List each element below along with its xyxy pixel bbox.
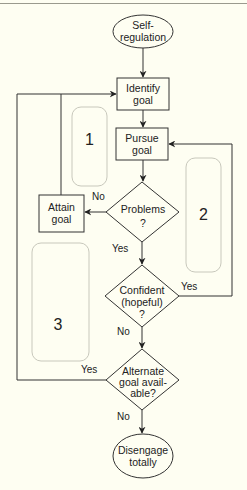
node-identify-goal: Identify goal — [117, 78, 169, 110]
node-identify-goal-line2: goal — [133, 94, 153, 106]
node-self-regulation: Self- regulation — [113, 15, 173, 48]
node-alternate-goal: Alternate goal avail- able? — [106, 349, 179, 410]
label-problems-yes: Yes — [112, 243, 128, 254]
region-1-label: 1 — [85, 131, 94, 148]
node-pursue-goal: Pursue goal — [116, 128, 168, 160]
region-1: 1 — [72, 107, 107, 186]
node-pursue-goal-line2: goal — [132, 144, 152, 156]
node-problems-line1: Problems — [121, 203, 165, 215]
node-disengage-totally: Disengage totally — [113, 434, 173, 478]
node-identify-goal-line1: Identify — [126, 82, 161, 94]
node-problems: Problems ? — [106, 182, 179, 242]
node-confident-line3: ? — [139, 308, 145, 320]
region-2-label: 2 — [199, 206, 208, 223]
node-attain-goal: Attain goal — [39, 195, 84, 232]
region-3: 3 — [32, 243, 89, 361]
label-problems-no: No — [92, 191, 105, 202]
node-confident-line1: Confident — [120, 284, 165, 296]
node-self-regulation-line1: Self- — [132, 19, 154, 31]
region-3-label: 3 — [54, 316, 63, 333]
node-disengage-line2: totally — [129, 456, 157, 468]
region-2: 2 — [186, 158, 221, 272]
node-attain-goal-line1: Attain — [48, 201, 75, 213]
label-alternate-no: No — [117, 411, 130, 422]
node-confident: Confident (hopeful) ? — [105, 265, 179, 327]
label-alternate-yes: Yes — [81, 364, 97, 375]
node-problems-line2: ? — [140, 217, 146, 229]
label-confident-yes: Yes — [181, 281, 197, 292]
node-pursue-goal-line1: Pursue — [125, 132, 158, 144]
node-attain-goal-line2: goal — [52, 213, 72, 225]
flowchart: 1 2 3 Self- regulation — [0, 0, 247, 490]
node-disengage-line1: Disengage — [118, 444, 168, 456]
node-self-regulation-line2: regulation — [120, 31, 166, 43]
node-confident-line2: (hopeful) — [121, 296, 162, 308]
label-confident-no: No — [117, 326, 130, 337]
node-alternate-goal-line3: able? — [130, 387, 156, 399]
